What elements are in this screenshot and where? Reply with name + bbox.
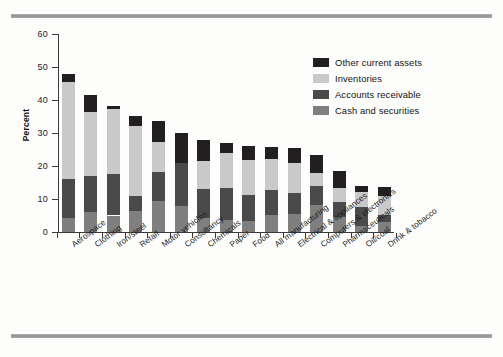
y-tick-mark bbox=[52, 100, 58, 101]
legend-swatch bbox=[313, 74, 329, 83]
bar-segment[interactable] bbox=[197, 161, 210, 189]
bar-segment[interactable] bbox=[107, 174, 120, 216]
y-tick-mark bbox=[52, 199, 58, 200]
y-tick-label: 40 bbox=[22, 95, 48, 105]
y-tick-label: 20 bbox=[22, 161, 48, 171]
bar-stack[interactable] bbox=[288, 34, 301, 232]
y-tick-label: 0 bbox=[22, 227, 48, 237]
bar-segment[interactable] bbox=[62, 82, 75, 179]
figure-container: Percent 0102030405060 AerospaceClothingI… bbox=[0, 0, 503, 357]
legend-label: Other current assets bbox=[335, 57, 422, 68]
bar-segment[interactable] bbox=[220, 143, 233, 154]
bar-segment[interactable] bbox=[152, 142, 165, 172]
bar-stack[interactable] bbox=[129, 34, 142, 232]
bar-segment[interactable] bbox=[62, 74, 75, 82]
bar-segment[interactable] bbox=[310, 173, 323, 187]
bar-segment[interactable] bbox=[197, 140, 210, 161]
x-tick-mark bbox=[57, 233, 58, 238]
legend-swatch bbox=[313, 106, 329, 115]
bar-stack[interactable] bbox=[84, 34, 97, 232]
bar-stack[interactable] bbox=[197, 34, 210, 232]
bar-stack[interactable] bbox=[175, 34, 188, 232]
bar-segment[interactable] bbox=[107, 109, 120, 173]
bar-segment[interactable] bbox=[265, 147, 278, 159]
bar-segment[interactable] bbox=[265, 159, 278, 191]
bar-segment[interactable] bbox=[152, 172, 165, 201]
bar-segment[interactable] bbox=[84, 176, 97, 212]
legend-label: Inventories bbox=[335, 73, 382, 84]
bar-segment[interactable] bbox=[310, 155, 323, 172]
y-tick-label: 10 bbox=[22, 194, 48, 204]
legend-item[interactable]: Cash and securities bbox=[313, 104, 493, 117]
y-axis-line bbox=[58, 34, 59, 233]
bar-segment[interactable] bbox=[175, 133, 188, 163]
y-tick-mark bbox=[52, 166, 58, 167]
legend-item[interactable]: Other current assets bbox=[313, 56, 493, 69]
bar-segment[interactable] bbox=[288, 163, 301, 193]
legend-swatch bbox=[313, 58, 329, 67]
legend-swatch bbox=[313, 90, 329, 99]
legend-item[interactable]: Accounts receivable bbox=[313, 88, 493, 101]
bar-segment[interactable] bbox=[265, 215, 278, 232]
bar-segment[interactable] bbox=[242, 160, 255, 195]
y-tick-mark bbox=[52, 34, 58, 35]
legend-label: Accounts receivable bbox=[335, 89, 421, 100]
bar-stack[interactable] bbox=[265, 34, 278, 232]
bar-segment[interactable] bbox=[220, 188, 233, 220]
bar-segment[interactable] bbox=[62, 179, 75, 218]
bar-stack[interactable] bbox=[62, 34, 75, 232]
bar-segment[interactable] bbox=[333, 171, 346, 188]
y-tick-label: 30 bbox=[22, 128, 48, 138]
y-tick-label: 60 bbox=[22, 29, 48, 39]
bar-stack[interactable] bbox=[152, 34, 165, 232]
bar-segment[interactable] bbox=[288, 148, 301, 163]
y-tick-label: 50 bbox=[22, 62, 48, 72]
bar-segment[interactable] bbox=[129, 116, 142, 126]
bar-segment[interactable] bbox=[129, 126, 142, 196]
bar-stack[interactable] bbox=[220, 34, 233, 232]
x-tick-label: Food bbox=[251, 231, 272, 250]
y-tick-mark bbox=[52, 67, 58, 68]
bar-segment[interactable] bbox=[310, 186, 323, 205]
bar-segment[interactable] bbox=[84, 95, 97, 112]
y-tick-mark bbox=[52, 133, 58, 134]
bar-segment[interactable] bbox=[265, 190, 278, 215]
bar-segment[interactable] bbox=[288, 193, 301, 214]
bar-segment[interactable] bbox=[129, 196, 142, 211]
bar-segment[interactable] bbox=[242, 146, 255, 160]
legend-label: Cash and securities bbox=[335, 105, 419, 116]
bar-segment[interactable] bbox=[152, 201, 165, 232]
bar-segment[interactable] bbox=[62, 218, 75, 232]
bar-stack[interactable] bbox=[242, 34, 255, 232]
bar-segment[interactable] bbox=[175, 163, 188, 207]
plot-area: Percent 0102030405060 AerospaceClothingI… bbox=[0, 0, 503, 357]
bar-segment[interactable] bbox=[84, 112, 97, 176]
bar-segment[interactable] bbox=[107, 106, 120, 110]
bar-segment[interactable] bbox=[220, 153, 233, 187]
bar-stack[interactable] bbox=[107, 34, 120, 232]
bar-segment[interactable] bbox=[242, 195, 255, 221]
bar-segment[interactable] bbox=[333, 188, 346, 202]
chart-legend: Other current assetsInventoriesAccounts … bbox=[313, 56, 493, 120]
bar-segment[interactable] bbox=[152, 121, 165, 141]
legend-item[interactable]: Inventories bbox=[313, 72, 493, 85]
